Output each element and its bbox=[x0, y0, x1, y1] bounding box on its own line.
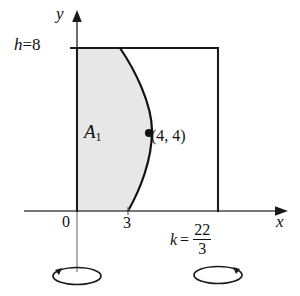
height-variable: h bbox=[14, 35, 23, 54]
region-label-base: A bbox=[84, 121, 96, 142]
height-label: h=8 bbox=[14, 36, 41, 53]
height-equals-sign: = bbox=[23, 35, 33, 54]
arrow-up-icon bbox=[72, 10, 82, 22]
k-equals-sign: = bbox=[180, 232, 189, 248]
y-axis-label: y bbox=[56, 5, 64, 22]
figure-canvas bbox=[0, 0, 300, 296]
k-fraction: 22 3 bbox=[193, 222, 211, 258]
origin-label: 0 bbox=[62, 214, 70, 230]
k-numerator: 22 bbox=[193, 222, 211, 238]
region-label-a1: A1 bbox=[84, 122, 102, 143]
k-variable: k bbox=[170, 232, 177, 248]
region-label-subscript: 1 bbox=[96, 130, 102, 144]
x-tick-label-3: 3 bbox=[123, 215, 131, 231]
x-axis-label: x bbox=[276, 213, 284, 230]
k-denominator: 3 bbox=[197, 241, 207, 257]
point-coordinate-label: (4, 4) bbox=[151, 128, 186, 144]
k-value-label: k = 22 3 bbox=[170, 222, 211, 258]
math-figure: h=8 y x 0 3 A1 (4, 4) k = 22 3 bbox=[0, 0, 300, 296]
height-value: 8 bbox=[32, 35, 41, 54]
